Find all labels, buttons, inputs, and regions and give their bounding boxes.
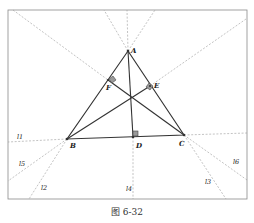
label-l3: l3 bbox=[205, 178, 211, 186]
label-l2: l2 bbox=[41, 184, 47, 192]
altitude-ad bbox=[128, 51, 133, 137]
point-c bbox=[183, 134, 186, 137]
dashed-line-l5 bbox=[8, 139, 67, 181]
dashed-line-a-right bbox=[128, 10, 155, 51]
label-l4: l4 bbox=[126, 185, 132, 193]
vertex-points bbox=[66, 50, 186, 141]
dashed-line-cf-extension bbox=[13, 10, 108, 80]
dashed-line-be-extension bbox=[150, 19, 246, 86]
dashed-line-a-left bbox=[104, 10, 128, 51]
dashed-line-l2 bbox=[29, 139, 67, 199]
dashed-line-c-right bbox=[184, 133, 247, 135]
dashed-lines bbox=[8, 10, 247, 199]
label-f: F bbox=[105, 83, 112, 92]
label-c: C bbox=[179, 139, 185, 148]
label-e: E bbox=[153, 81, 160, 90]
dashed-line-a-up bbox=[127, 10, 128, 51]
point-b bbox=[66, 138, 69, 141]
dashed-line-l3 bbox=[184, 135, 226, 199]
label-l6: l6 bbox=[233, 158, 239, 166]
point-e bbox=[149, 85, 151, 87]
label-d: D bbox=[135, 141, 143, 150]
triangle-abc bbox=[67, 51, 184, 139]
solid-lines bbox=[67, 51, 184, 139]
figure-caption: 图 6-32 bbox=[111, 207, 143, 217]
label-l1: l1 bbox=[17, 133, 23, 141]
point-f bbox=[107, 79, 109, 81]
label-a: A bbox=[130, 46, 137, 55]
point-a bbox=[127, 50, 130, 53]
label-l5: l5 bbox=[19, 160, 25, 168]
triangle-orthocenter-diagram: A B C D E F l1 l5 l2 l4 l3 l6 图 6-32 bbox=[0, 0, 254, 223]
label-b: B bbox=[69, 141, 76, 150]
point-d bbox=[132, 136, 135, 139]
right-angle-d-icon bbox=[133, 131, 138, 136]
